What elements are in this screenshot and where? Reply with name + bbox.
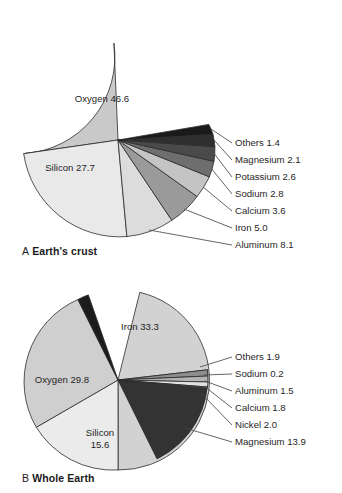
callout-label-magnesium: Magnesium 2.1 xyxy=(235,154,301,165)
callout-label-sodium: Sodium 0.2 xyxy=(235,368,284,379)
caption-whole-earth: B Whole Earth xyxy=(22,472,95,484)
pie-label-oxygen: Oxygen 29.8 xyxy=(35,374,89,385)
callout-label-calcium: Calcium 3.6 xyxy=(235,205,286,216)
caption-earths-crust: A Earth's crust xyxy=(22,245,97,257)
leader-line-aluminum xyxy=(149,230,232,245)
pie-label-oxygen: Oxygen 46.6 xyxy=(75,93,129,104)
callout-label-nickel: Nickel 2.0 xyxy=(235,419,277,430)
chart-panel-whole-earth: Iron 33.3 Oxygen 29.8 Silicon 15.6 Other… xyxy=(0,268,342,493)
callout-label-others: Others 1.4 xyxy=(235,137,280,148)
callout-label-others: Others 1.9 xyxy=(235,351,280,362)
callout-label-aluminum: Aluminum 1.5 xyxy=(235,385,294,396)
pie-label-iron: Iron 33.3 xyxy=(121,321,159,332)
callout-label-sodium: Sodium 2.8 xyxy=(235,188,284,199)
pie-chart-whole-earth: Iron 33.3 Oxygen 29.8 Silicon 15.6 Other… xyxy=(0,268,342,493)
leader-line-calcium xyxy=(203,187,232,211)
callout-label-aluminum: Aluminum 8.1 xyxy=(235,239,294,250)
chart-panel-earths-crust: Oxygen 46.6 Silicon 27.7 Others 1.4 Magn… xyxy=(0,0,342,270)
leader-line-magnesium xyxy=(185,428,232,442)
callout-label-iron: Iron 5.0 xyxy=(235,222,268,233)
pie-label-silicon: Silicon 27.7 xyxy=(45,162,95,173)
leader-line-nickel xyxy=(201,393,232,425)
pie-slice-silicon[interactable] xyxy=(24,140,127,237)
callout-label-potassium: Potassium 2.6 xyxy=(235,171,296,182)
caption-text-b: Whole Earth xyxy=(32,472,94,484)
callout-label-magnesium: Magnesium 13.9 xyxy=(235,436,306,447)
caption-text-a: Earth's crust xyxy=(32,245,97,257)
pie-label-silicon-value: 15.6 xyxy=(91,439,110,450)
leader-line-iron xyxy=(184,209,232,228)
pie-chart-earths-crust: Oxygen 46.6 Silicon 27.7 Others 1.4 Magn… xyxy=(0,0,342,270)
callout-label-calcium: Calcium 1.8 xyxy=(235,402,286,413)
pie-label-silicon: Silicon xyxy=(86,427,114,438)
